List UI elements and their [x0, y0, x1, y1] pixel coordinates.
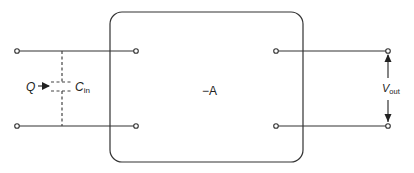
- input-terminal-bottom: [15, 124, 20, 129]
- block-input-terminal-bottom: [134, 124, 139, 129]
- input-terminal-top: [15, 49, 20, 54]
- block-output-terminal-bottom: [274, 124, 279, 129]
- output-voltage-label: Vout: [382, 82, 401, 96]
- input-capacitance-label: Cin: [75, 80, 90, 95]
- block-input-terminal-top: [134, 49, 139, 54]
- output-terminal-top: [386, 49, 391, 54]
- input-capacitor-symbol: [51, 51, 73, 126]
- block-output-terminal-top: [274, 49, 279, 54]
- output-terminal-bottom: [386, 124, 391, 129]
- block-gain-label: −A: [202, 84, 217, 98]
- amplifier-diagram: −A Q Cin Vout: [0, 0, 414, 173]
- charge-label: Q: [26, 80, 35, 94]
